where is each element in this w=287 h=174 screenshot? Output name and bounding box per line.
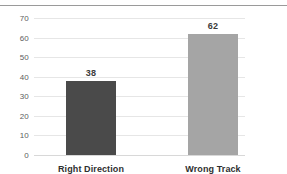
- x-axis-category-label: Wrong Track: [185, 164, 240, 174]
- gridline-0: [34, 155, 245, 156]
- y-axis-tick-label: 70: [20, 14, 29, 23]
- bar-value-label: 38: [86, 68, 96, 78]
- y-axis-tick-label: 20: [20, 111, 29, 120]
- bar-wrong-track[interactable]: 62: [188, 34, 238, 155]
- y-axis-tick-label: 30: [20, 92, 29, 101]
- y-axis-tick-label: 60: [20, 33, 29, 42]
- gridline-70: [34, 18, 245, 19]
- bar-chart-figure: 7060504030201003862 Right DirectionWrong…: [0, 0, 287, 174]
- bar-right-direction[interactable]: 38: [66, 81, 116, 155]
- plot-area: 7060504030201003862: [34, 18, 245, 155]
- y-axis-tick-label: 10: [20, 131, 29, 140]
- y-axis-tick-label: 0: [24, 151, 29, 160]
- top-divider-rule: [0, 5, 287, 6]
- x-axis-category-label: Right Direction: [58, 164, 124, 174]
- bar-value-label: 62: [208, 21, 218, 31]
- y-axis-tick-label: 40: [20, 72, 29, 81]
- y-axis-tick-label: 50: [20, 53, 29, 62]
